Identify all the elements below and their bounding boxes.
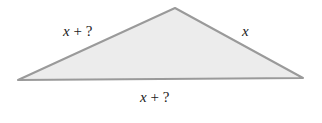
- left-side-label: x + ?: [63, 24, 92, 39]
- triangle: [18, 8, 303, 80]
- left-side-unknown: ?: [86, 23, 93, 39]
- right-side-label: x: [242, 24, 249, 39]
- left-side-variable: x: [63, 23, 70, 39]
- bottom-side-operator: +: [147, 89, 163, 105]
- left-side-operator: +: [70, 23, 86, 39]
- bottom-side-unknown: ?: [163, 89, 170, 105]
- bottom-side-variable: x: [140, 89, 147, 105]
- bottom-side-label: x + ?: [140, 90, 169, 105]
- right-side-variable: x: [242, 23, 249, 39]
